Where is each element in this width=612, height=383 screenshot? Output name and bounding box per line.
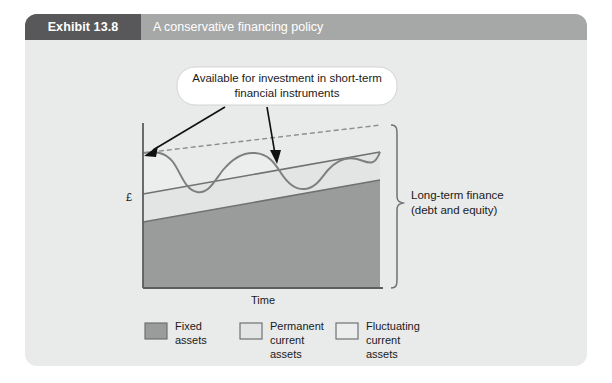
long-term-finance-dashed-line — [143, 125, 381, 153]
legend-item-permanent-current-assets: Permanent current assets — [240, 320, 324, 360]
figure-area: £ Time Available for investment in short… — [25, 40, 587, 366]
callout-arrow-left-head — [144, 146, 158, 157]
conservative-financing-chart: £ Time Available for investment in short… — [25, 40, 587, 366]
legend-swatch-fluctuating-current-assets — [336, 323, 358, 339]
legend-label-permanent-current-assets-line-2: current — [270, 334, 304, 346]
legend-item-fluctuating-current-assets: Fluctuating current assets — [336, 320, 420, 360]
legend-swatch-permanent-current-assets — [240, 323, 262, 339]
callout-line-1: Available for investment in short-term — [192, 72, 382, 84]
x-axis-label: Time — [251, 294, 275, 306]
legend-swatch-fixed-assets — [145, 323, 167, 339]
legend-label-permanent-current-assets-line-3: assets — [270, 348, 302, 360]
legend-label-fixed-assets-line-2: assets — [175, 334, 207, 346]
legend-label-fluctuating-current-assets-line-1: Fluctuating — [366, 320, 420, 332]
long-term-finance-label-line-2: (debt and equity) — [411, 204, 497, 216]
legend-label-fixed-assets-line-1: Fixed — [175, 320, 202, 332]
y-axis-label: £ — [126, 191, 132, 203]
legend-item-fixed-assets: Fixed assets — [145, 320, 207, 346]
legend-label-permanent-current-assets-line-1: Permanent — [270, 320, 324, 332]
legend-label-fluctuating-current-assets-line-3: assets — [366, 348, 398, 360]
long-term-finance-brace — [391, 125, 403, 288]
legend-label-fluctuating-current-assets-line-2: current — [366, 334, 400, 346]
exhibit-number-badge: Exhibit 13.8 — [25, 14, 141, 40]
exhibit-panel: Exhibit 13.8 A conservative financing po… — [25, 14, 587, 366]
callout-arrow-down-shaft — [267, 107, 275, 154]
callout-line-2: financial instruments — [235, 87, 340, 99]
long-term-finance-label-line-1: Long-term finance — [411, 189, 504, 201]
exhibit-header-bar: Exhibit 13.8 A conservative financing po… — [25, 14, 587, 40]
legend: Fixed assets Permanent current assets Fl… — [145, 320, 420, 360]
exhibit-number-label: Exhibit 13.8 — [48, 20, 119, 34]
exhibit-title: A conservative financing policy — [153, 14, 323, 40]
callout-arrow-left-shaft — [153, 107, 225, 150]
